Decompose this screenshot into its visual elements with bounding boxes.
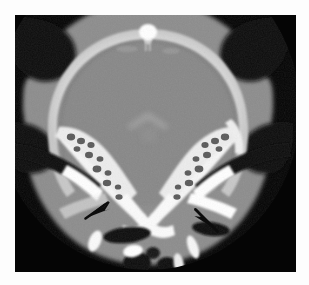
ct-scan-image [15,15,296,272]
ct-image-frame [15,15,296,272]
figure-page: CT axial bone skull base / temporal bone… [0,0,309,285]
